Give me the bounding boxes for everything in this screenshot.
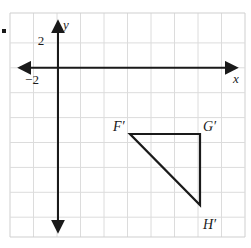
y-axis-label: y — [61, 17, 69, 32]
vertex-label-h-prime: H′ — [202, 217, 217, 232]
coordinate-graph: x y 2 −2 F′ G′ H′ — [0, 0, 251, 248]
y-tick-label-2: 2 — [38, 33, 45, 48]
triangle-shape — [130, 134, 200, 205]
coordinate-plane-figure: x y 2 −2 F′ G′ H′ — [0, 0, 251, 248]
x-tick-label-neg2: −2 — [25, 72, 39, 87]
vertex-label-g-prime: G′ — [203, 119, 217, 134]
x-axis-label: x — [232, 71, 239, 86]
vertex-label-f-prime: F′ — [112, 119, 126, 134]
bullet-mark-icon — [2, 29, 6, 33]
